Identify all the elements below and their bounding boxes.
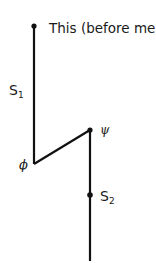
s2-label-main: S <box>100 188 109 204</box>
s1-label-sub: 1 <box>18 90 24 100</box>
worldline-diagram: This (before me) S1 ϕ ψ S2 <box>0 0 156 263</box>
top-label: This (before me) <box>48 20 156 36</box>
psi-label: ψ <box>100 123 110 137</box>
segment-phi-to-psi <box>34 130 90 164</box>
top-point-dot <box>31 23 36 28</box>
path-lines <box>34 26 90 261</box>
s1-label-main: S <box>9 82 18 98</box>
s1-label: S1 <box>9 82 24 100</box>
s2-label-sub: 2 <box>109 196 115 206</box>
s2-label: S2 <box>100 188 115 206</box>
phi-label: ϕ <box>19 157 28 172</box>
psi-point-dot <box>87 127 92 132</box>
s2-point-dot <box>87 192 93 198</box>
